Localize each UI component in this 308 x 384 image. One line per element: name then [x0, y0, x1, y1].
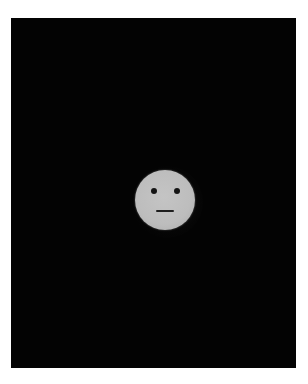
- mouth: [156, 210, 174, 212]
- right-eye: [174, 188, 180, 194]
- black-background: [11, 18, 296, 368]
- left-eye: [151, 188, 157, 194]
- neutral-face-icon: [135, 170, 195, 230]
